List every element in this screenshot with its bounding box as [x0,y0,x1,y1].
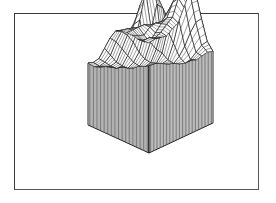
surface-mesh [88,0,213,68]
surface-plot [0,0,276,203]
